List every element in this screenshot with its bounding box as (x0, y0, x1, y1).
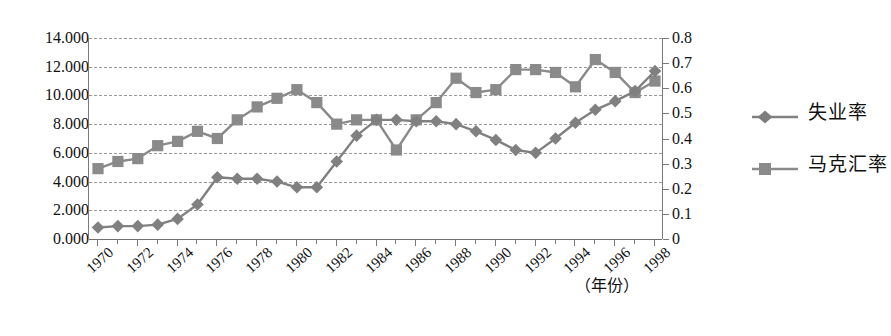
data-point (609, 95, 622, 108)
x-axis-tick (475, 239, 476, 244)
x-axis-tick-label: 1990 (482, 245, 514, 276)
legend-item-unemployment[interactable]: 失业率 (752, 96, 891, 148)
data-point (291, 84, 302, 95)
data-point (172, 136, 183, 147)
x-axis-tick (594, 239, 595, 244)
y-axis-right-tick-label: 0.2 (672, 181, 732, 197)
x-axis-tick (535, 239, 536, 246)
x-axis-tick-label: 1978 (243, 245, 275, 276)
y-axis-left-tick-label: 0.000 (11, 231, 89, 247)
data-point (490, 134, 503, 147)
chart-figure: 0.0002.0004.0006.0008.00010.00012.00014.… (0, 0, 891, 336)
data-point (390, 114, 403, 127)
data-point (509, 144, 522, 157)
data-point (490, 84, 501, 95)
data-point (291, 181, 304, 194)
x-axis-tick (336, 239, 337, 246)
data-point (131, 220, 144, 233)
x-axis-tick (137, 239, 138, 246)
plot-area (88, 38, 663, 239)
y-axis-right-tick-label: 0.8 (672, 30, 732, 46)
data-point (311, 97, 322, 108)
data-point (530, 64, 541, 75)
data-point (351, 114, 362, 125)
series-line (98, 71, 655, 227)
data-point (212, 133, 223, 144)
data-point (92, 163, 103, 174)
data-point (252, 101, 263, 112)
x-axis-tick (196, 239, 197, 244)
diamond-marker-icon (752, 110, 798, 124)
data-point (610, 67, 621, 78)
x-axis-tick (495, 239, 496, 246)
data-point (470, 125, 483, 138)
y-axis-right-tick-label: 0.1 (672, 206, 732, 222)
x-axis-tick-label: 1982 (323, 245, 355, 276)
data-point (331, 119, 342, 130)
data-point (391, 144, 402, 155)
x-axis-tick (296, 239, 297, 246)
y-axis-left-tick-label: 8.000 (11, 116, 89, 132)
y-axis-left-tick-label: 4.000 (11, 174, 89, 190)
data-point (271, 93, 282, 104)
data-point (231, 172, 244, 185)
x-axis-tick-label: 1974 (164, 245, 196, 276)
data-point (431, 97, 442, 108)
x-axis-tick-label: 1988 (442, 245, 474, 276)
data-point (450, 73, 461, 84)
x-axis-tick (654, 239, 655, 246)
data-point (590, 54, 601, 65)
x-axis-tick (376, 239, 377, 246)
x-axis-tick (574, 239, 575, 246)
legend-label-unemployment: 失业率 (808, 102, 868, 124)
y-axis-right-tick-label: 0.3 (672, 156, 732, 172)
x-axis-tick (395, 239, 396, 244)
y-axis-right-tick-label: 0.5 (672, 105, 732, 121)
y-axis-left-tick-label: 12.000 (11, 59, 89, 75)
data-point (232, 114, 243, 125)
y-axis-left-tick-label: 10.000 (11, 87, 89, 103)
legend-item-mark-rate[interactable]: 马克汇率 (752, 148, 891, 200)
y-axis-left-tick-label: 14.000 (11, 30, 89, 46)
data-point (271, 175, 284, 188)
x-axis-tick (236, 239, 237, 244)
data-point (132, 153, 143, 164)
y-axis-left-tick-label: 2.000 (11, 202, 89, 218)
data-point (450, 118, 463, 131)
x-axis-title: （年份） (575, 272, 639, 296)
x-axis-tick (97, 239, 98, 246)
data-point (510, 64, 521, 75)
data-point (152, 140, 163, 151)
x-axis-tick (256, 239, 257, 246)
x-axis-tick-label: 1986 (402, 245, 434, 276)
series-canvas (89, 38, 664, 239)
data-point (151, 218, 164, 231)
x-axis-tick (356, 239, 357, 244)
x-axis-tick (555, 239, 556, 244)
x-axis-tick (216, 239, 217, 246)
x-axis-tick (177, 239, 178, 246)
data-point (112, 220, 125, 233)
x-axis-tick (455, 239, 456, 246)
x-axis-tick (435, 239, 436, 244)
data-point (430, 115, 443, 128)
x-axis-tick (634, 239, 635, 244)
y-axis-right-tick (663, 239, 669, 240)
x-axis-tick (515, 239, 516, 244)
y-axis-right-tick-label: 0.6 (672, 80, 732, 96)
chart-legend: 失业率 马克汇率 (752, 96, 891, 200)
y-axis-right-tick-label: 0.7 (672, 55, 732, 71)
x-axis-tick (276, 239, 277, 244)
data-point (92, 221, 105, 234)
y-axis-right-tick-label: 0.4 (672, 131, 732, 147)
x-axis-tick-label: 1976 (203, 245, 235, 276)
x-axis-tick-label: 1980 (283, 245, 315, 276)
data-point (470, 87, 481, 98)
y-axis-right-tick-label: 0 (672, 231, 732, 247)
data-point (550, 67, 561, 78)
square-marker-icon (752, 162, 798, 176)
legend-label-mark-rate: 马克汇率 (808, 154, 888, 176)
x-axis-tick-label: 1984 (363, 245, 395, 276)
x-axis-tick (157, 239, 158, 244)
data-point (251, 172, 264, 185)
